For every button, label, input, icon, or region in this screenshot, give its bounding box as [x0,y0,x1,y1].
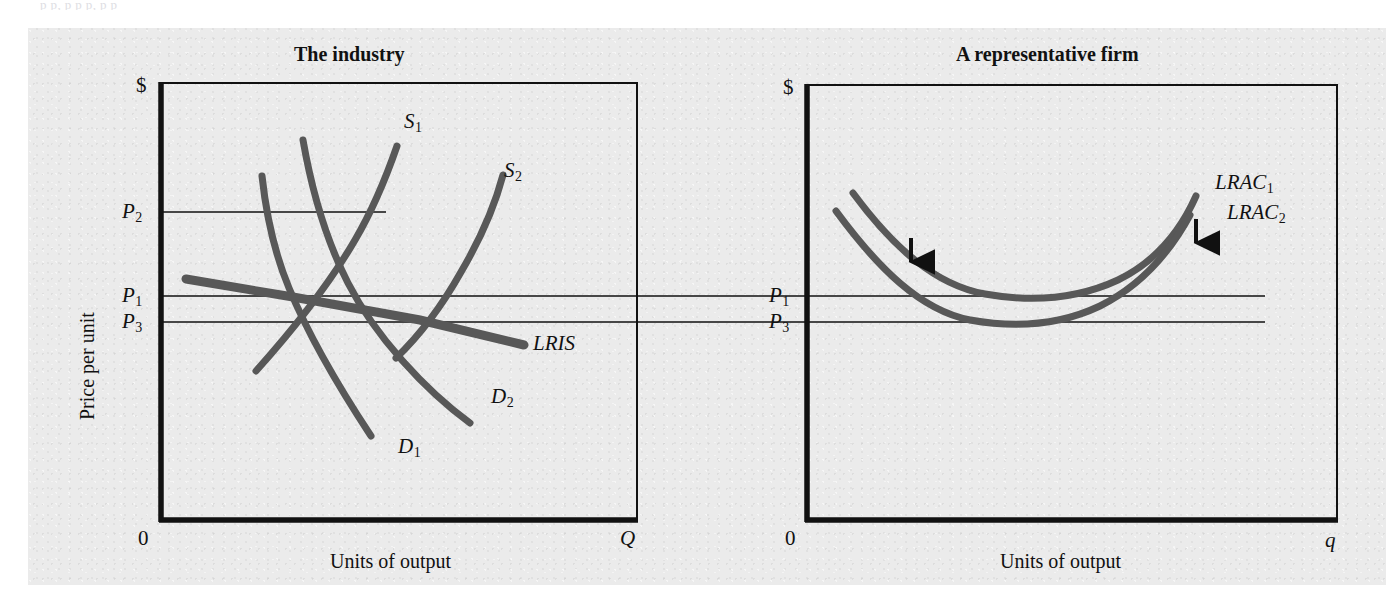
curve-label-d2-letter: D [491,384,506,408]
curve-label-s2-sub: 2 [515,169,523,184]
firm-dollar-symbol: $ [783,75,794,100]
curve-label-lris: LRIS [533,331,575,356]
industry-y-axis-title: Price per unit [76,312,99,420]
curve-label-d1: D1 [398,434,421,461]
industry-x-axis-end-letter: Q [620,526,635,550]
curve-label-d2-sub: 2 [506,395,514,410]
curve-label-lrac2: LRAC2 [1227,200,1286,227]
curve-label-d1-letter: D [398,434,413,458]
price-tick-p1-industry-sub: 1 [135,294,143,309]
price-tick-p3-industry-sub: 3 [135,320,143,335]
firm-x-axis-title: Units of output [1000,550,1121,573]
price-tick-p3-firm: P3 [769,309,789,336]
price-tick-p1-firm-sub: 1 [782,294,790,309]
industry-dollar-symbol: $ [136,73,147,98]
price-tick-p2: P2 [122,199,142,226]
firm-x-axis-end-letter: q [1325,528,1336,552]
panel-title-industry: The industry [294,43,405,66]
curve-label-lrac1-text: LRAC [1215,170,1266,194]
industry-x-axis-title: Units of output [330,550,451,573]
price-tick-p1-firm-letter: P [769,283,782,307]
figure-container: p p, p p p, p p [0,0,1391,612]
price-tick-p3-industry: P3 [122,309,142,336]
curve-label-s2-letter: S [504,158,515,182]
firm-panel-frame [805,84,1338,522]
firm-origin-label: 0 [785,526,796,551]
diagram-svg [0,0,1391,612]
price-tick-p1-firm: P1 [769,283,789,310]
curve-label-lrac1-sub: 1 [1266,181,1274,196]
curve-label-d1-sub: 1 [413,445,421,460]
curve-label-lris-text: LRIS [533,331,575,355]
curve-label-s2: S2 [504,158,522,185]
price-tick-p3-firm-sub: 3 [782,320,790,335]
price-tick-p1-industry-letter: P [122,283,135,307]
price-tick-p3-industry-letter: P [122,309,135,333]
price-tick-p1-industry: P1 [122,283,142,310]
price-tick-p2-letter: P [122,199,135,223]
price-tick-p2-sub: 2 [135,210,143,225]
industry-origin-label: 0 [138,526,149,551]
curve-label-s1-letter: S [404,109,415,133]
curve-label-lrac2-text: LRAC [1227,200,1278,224]
price-tick-p3-firm-letter: P [769,309,782,333]
curve-label-s1: S1 [404,109,422,136]
industry-x-axis-end-symbol: Q [620,526,635,551]
panel-title-firm: A representative firm [956,43,1139,66]
curve-label-d2: D2 [491,384,514,411]
curve-label-lrac1: LRAC1 [1215,170,1274,197]
curve-label-s1-sub: 1 [415,120,423,135]
curve-label-lrac2-sub: 2 [1278,211,1286,226]
firm-x-axis-end-symbol: q [1325,528,1336,553]
